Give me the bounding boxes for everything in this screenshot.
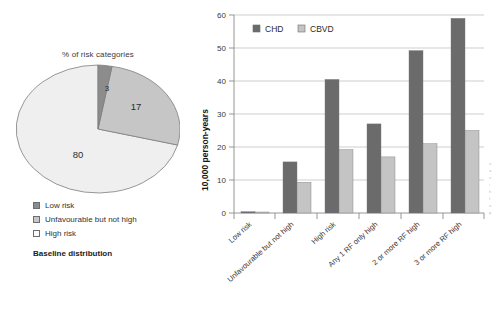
bar-group-unfavourable: [283, 162, 311, 213]
legend-item-label: Unfavourable but not high: [45, 215, 137, 224]
pie-value-low-risk: 3: [105, 84, 110, 93]
y-tick-label: 50: [217, 44, 226, 53]
edge-text-line: t: [489, 195, 503, 202]
legend-item-label: Low risk: [45, 201, 74, 210]
y-tick-label: 60: [217, 11, 226, 20]
page-edge-text-fragment: n a e i h t a p: [489, 160, 503, 216]
y-axis-title: 10,000 person-years: [200, 109, 210, 191]
legend-item-high-risk: High risk: [33, 227, 193, 240]
pie-chart-title: % of risk categories: [0, 50, 196, 59]
pie-chart-legend: Low risk Unfavourable but not high High …: [33, 199, 193, 241]
edge-text-line: a: [489, 202, 503, 209]
gridlines: [234, 15, 484, 180]
pie-chart-graphic: 3 17 80: [16, 62, 180, 196]
legend-swatch-icon: [33, 230, 40, 237]
y-axis-tick-labels: 60 50 40 30 20 10 0: [217, 11, 226, 218]
bar-cbvd: [423, 144, 437, 213]
pie-chart-caption: Baseline distribution: [33, 249, 112, 258]
bar-chart-legend: CHD CBVD: [253, 24, 334, 34]
bar-group-any-1-rf-only-high: [367, 124, 395, 213]
legend-item-label: High risk: [45, 229, 76, 238]
bar-cbvd: [297, 182, 311, 213]
legend-swatch-icon: [33, 202, 40, 209]
legend-item-low-risk: Low risk: [33, 199, 193, 212]
bar-cbvd: [339, 150, 353, 213]
edge-text-line: a: [489, 167, 503, 174]
bar-group-high-risk: [325, 79, 353, 213]
bar-cbvd: [381, 157, 395, 213]
bar-chd: [241, 212, 255, 213]
legend-item-unfavourable: Unfavourable but not high: [33, 213, 193, 226]
bar-group-low-risk: [241, 212, 269, 213]
y-tick-label: 30: [217, 110, 226, 119]
edge-text-line: n: [489, 160, 503, 167]
legend-item-label: CHD: [265, 24, 283, 34]
x-category-label: High risk: [310, 220, 338, 246]
bar-chart-panel: 10,000 person-years: [196, 0, 503, 328]
bar-chd: [409, 51, 423, 213]
bar-chd: [367, 124, 381, 213]
y-tick-label: 20: [217, 143, 226, 152]
legend-item-label: CBVD: [310, 24, 334, 34]
edge-text-line: e: [489, 174, 503, 181]
y-tick-label: 40: [217, 77, 226, 86]
edge-text-line: h: [489, 188, 503, 195]
bar-cbvd: [465, 131, 479, 214]
x-axis-ticks: [234, 213, 484, 219]
bar-chd: [451, 18, 465, 213]
bar-cbvd: [255, 212, 269, 213]
legend-swatch-icon: [298, 25, 305, 32]
pie-chart-panel: % of risk categories 3 17 80 Low risk Un…: [0, 0, 196, 328]
y-axis-ticks: [229, 15, 234, 213]
edge-text-line: i: [489, 181, 503, 188]
bar-chd: [283, 162, 297, 213]
bar-group-2-or-more-rf-high: [409, 51, 437, 213]
pie-value-unfavourable: 17: [131, 101, 142, 112]
edge-text-line: p: [489, 209, 503, 216]
bar-group-3-or-more-rf-high: [451, 18, 479, 213]
legend-swatch-icon: [33, 216, 40, 223]
bar-chd: [325, 79, 339, 213]
legend-swatch-icon: [253, 25, 260, 32]
pie-value-high-risk: 80: [73, 149, 84, 160]
x-axis-category-labels: Low risk Unfavourable but not high High …: [225, 220, 463, 284]
bar-chart-graphic: 10,000 person-years: [196, 0, 503, 328]
y-tick-label: 10: [217, 176, 226, 185]
figure-root: % of risk categories 3 17 80 Low risk Un…: [0, 0, 503, 328]
x-category-label: Low risk: [227, 220, 254, 245]
y-tick-label: 0: [222, 209, 227, 218]
